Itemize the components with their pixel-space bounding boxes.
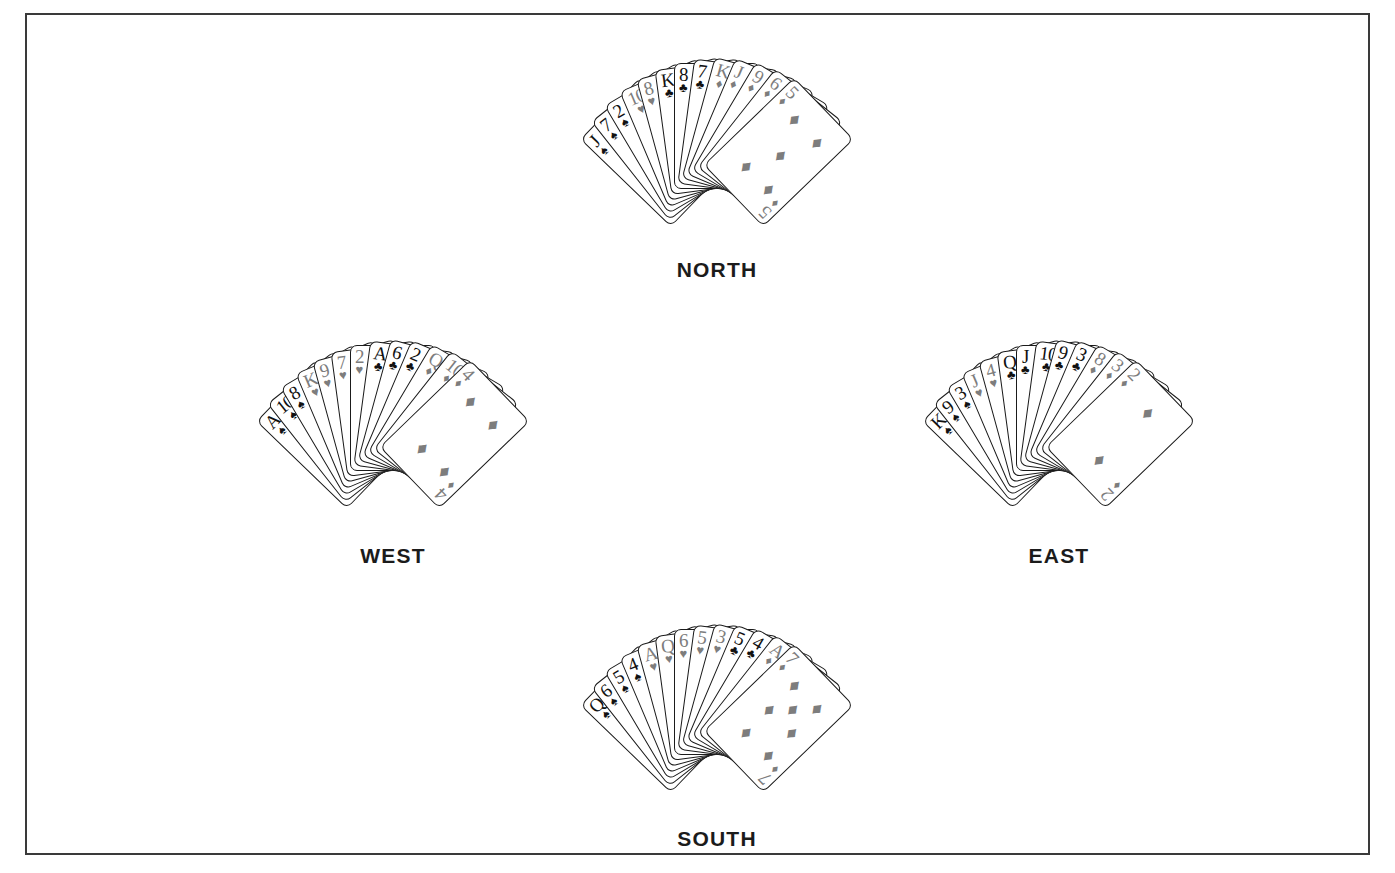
hand-label-north: NORTH <box>677 258 758 282</box>
card-corner-index: 4♥ <box>984 361 1000 391</box>
card-suit-icon: ♠ <box>961 398 973 412</box>
card-pip: ♦ <box>806 698 829 720</box>
card-suit-icon: ♦ <box>1118 377 1131 390</box>
card-suit-icon: ♥ <box>679 648 687 660</box>
card-pip: ♦ <box>784 108 807 130</box>
card-pip: ♦ <box>410 438 433 460</box>
card-suit-icon: ♠ <box>295 398 307 412</box>
card-suit-icon: ♣ <box>387 359 398 373</box>
card-pip: ♦ <box>1137 402 1160 424</box>
card-pip: ♦ <box>806 132 829 154</box>
card-suit-icon: ♦ <box>728 78 739 92</box>
card-suit-icon: ♣ <box>1053 359 1064 373</box>
card-pip: ♦ <box>757 180 780 202</box>
card-pip: ♦ <box>781 722 804 744</box>
card-corner-index: J♣ <box>1021 348 1030 376</box>
diagram-border: J♠J♠7♠7♠♠♠♠♠♠♠♠2♠2♠♠♠10♥10♥♥♥♥♥♥♥♥♥♥♥8♥8… <box>25 13 1370 855</box>
card-corner-index: 6♥ <box>679 632 688 660</box>
card-suit-icon: ♦ <box>452 377 465 390</box>
card-corner-index: 8♣ <box>679 66 688 94</box>
card-suit-icon: ♠ <box>619 682 631 696</box>
card-corner-index: 8♥ <box>642 79 658 109</box>
card-corner-index: 9♥ <box>318 361 334 391</box>
hand-label-east: EAST <box>1029 544 1090 568</box>
card-corner-index: 2♥ <box>355 348 364 376</box>
card-suit-icon: ♥ <box>974 387 986 401</box>
card-suit-icon: ♣ <box>1021 364 1030 376</box>
card-pip: ♦ <box>433 462 456 484</box>
card-suit-icon: ♣ <box>664 87 674 100</box>
card-suit-icon: ♦ <box>776 661 789 674</box>
hand-label-west: WEST <box>360 544 425 568</box>
card-suit-icon: ♥ <box>338 370 347 383</box>
card-suit-icon: ♣ <box>695 79 705 92</box>
card-pip: ♦ <box>770 144 793 166</box>
card-pip: ♦ <box>759 698 782 720</box>
card-pip: ♦ <box>1087 450 1110 472</box>
card-corner-index: 7♥ <box>336 353 348 382</box>
card-suit-icon: ♠ <box>619 116 631 130</box>
card-pip: ♦ <box>783 698 806 720</box>
hand-label-south: SOUTH <box>677 827 757 851</box>
card-suit-icon: ♥ <box>355 364 363 376</box>
card-suit-icon: ♣ <box>679 82 688 94</box>
card-pip: ♦ <box>757 746 780 768</box>
card-pip: ♦ <box>734 722 757 744</box>
card-suit-icon: ♥ <box>712 643 723 657</box>
card-suit-icon: ♥ <box>665 653 674 666</box>
card-suit-icon: ♠ <box>632 671 643 685</box>
card-suit-icon: ♣ <box>1006 369 1016 382</box>
card-pip: ♦ <box>482 414 505 436</box>
card-suit-icon: ♦ <box>776 95 789 108</box>
card-pip: ♦ <box>784 674 807 696</box>
card-pip: ♦ <box>734 156 757 178</box>
card-suit-icon: ♠ <box>598 144 611 157</box>
card-suit-icon: ♥ <box>695 645 704 658</box>
card-pip: ♦ <box>460 390 483 412</box>
